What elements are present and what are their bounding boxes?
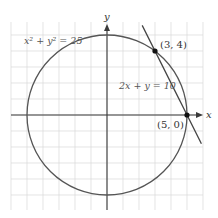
point-marker [184, 112, 189, 117]
circle-equation-label: x² + y² = 25 [24, 35, 82, 46]
y-axis-arrow-icon [104, 24, 110, 31]
diagram-canvas: x y (3, 4)(5, 0) x² + y² = 25 2x + y = 1… [0, 0, 218, 218]
point-label: (3, 4) [160, 39, 187, 50]
point-label: (5, 0) [157, 119, 184, 130]
y-axis-label: y [103, 11, 110, 22]
x-axis-label: x [206, 109, 212, 120]
x-axis-arrow-icon [196, 112, 203, 118]
point-marker [152, 48, 157, 53]
line-equation-label: 2x + y = 10 [118, 80, 176, 91]
